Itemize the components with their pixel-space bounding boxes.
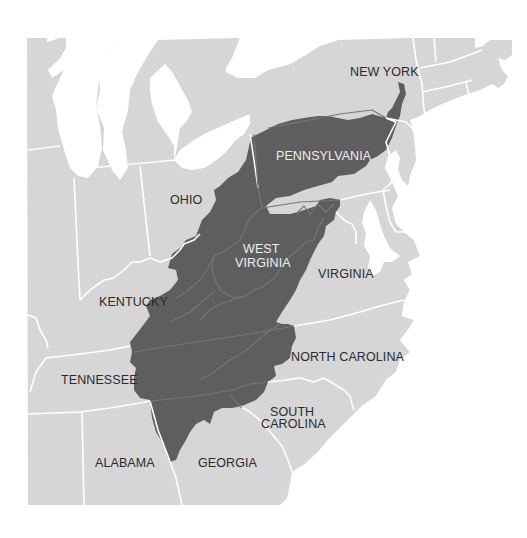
label-virginia: VIRGINIA	[318, 268, 374, 281]
label-west-virginia-2: VIRGINIA	[235, 257, 291, 270]
south-margin	[0, 505, 527, 538]
label-georgia: GEORGIA	[198, 457, 257, 470]
label-alabama: ALABAMA	[95, 457, 155, 470]
label-kentucky: KENTUCKY	[99, 296, 168, 309]
label-pennsylvania: PENNSYLVANIA	[276, 150, 371, 163]
north-margin	[0, 0, 527, 38]
label-tennessee: TENNESSEE	[61, 374, 138, 387]
west-margin	[0, 0, 27, 538]
label-new-york: NEW YORK	[350, 66, 419, 79]
label-ohio: OHIO	[170, 194, 202, 207]
label-south-carolina-2: CAROLINA	[261, 418, 326, 431]
label-west-virginia-1: WEST	[243, 243, 280, 256]
label-north-carolina: NORTH CAROLINA	[291, 351, 404, 364]
